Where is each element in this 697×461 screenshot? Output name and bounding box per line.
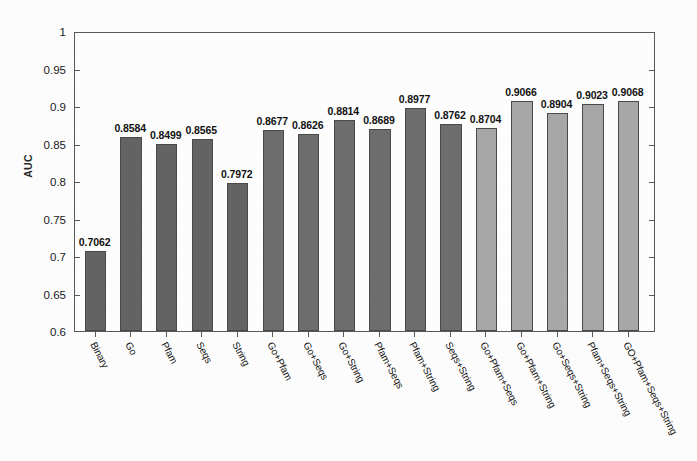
y-tick-label: 0.85 — [4, 139, 66, 151]
x-tick-label: Go+Pfam+Seqs — [479, 340, 522, 407]
x-tick-label: Binary — [88, 340, 111, 370]
y-tick-label: 0.8 — [4, 176, 66, 188]
bar — [120, 137, 141, 331]
x-tick-mark — [557, 332, 558, 337]
bar — [334, 120, 355, 331]
x-tick-mark — [592, 332, 593, 337]
x-tick-mark — [450, 332, 451, 337]
x-tick-label: Pfam+Seqs — [372, 340, 406, 390]
bar — [369, 129, 390, 331]
y-tick-label: 0.9 — [4, 101, 66, 113]
y-tick-label: 0.75 — [4, 214, 66, 226]
bar — [85, 251, 106, 331]
x-tick-label: Go+String — [337, 340, 368, 384]
x-tick-mark — [343, 332, 344, 337]
bar — [192, 139, 213, 331]
x-tick-mark — [414, 332, 415, 337]
x-tick-label: Pfam+Seqs+String — [585, 340, 633, 418]
x-tick-label: Go — [123, 340, 139, 357]
bar — [405, 108, 426, 331]
x-tick-mark — [95, 332, 96, 337]
bar — [227, 183, 248, 331]
y-tick-label: 0.7 — [4, 251, 66, 263]
plot-area — [74, 32, 655, 332]
x-tick-label: Seqs — [194, 340, 214, 365]
x-tick-label: Go+Seqs+String — [550, 340, 594, 409]
bar — [582, 104, 603, 331]
bar — [476, 128, 497, 331]
x-tick-label: Seqs+String — [443, 340, 478, 393]
x-tick-label: Go+Seqs — [301, 340, 330, 382]
x-tick-mark — [521, 332, 522, 337]
x-tick-label: Go+Pfam — [266, 340, 295, 382]
x-tick-mark — [130, 332, 131, 337]
x-tick-mark — [272, 332, 273, 337]
bar-chart-figure: AUC 0.60.650.70.750.80.850.90.951 Binary… — [0, 0, 697, 461]
x-tick-label: Go+Pfam+String — [514, 340, 558, 410]
x-tick-mark — [237, 332, 238, 337]
y-axis-label: AUC — [22, 136, 34, 196]
x-tick-label: Pfam — [159, 340, 179, 365]
x-tick-mark — [201, 332, 202, 337]
x-tick-mark — [628, 332, 629, 337]
x-tick-mark — [308, 332, 309, 337]
x-tick-mark — [379, 332, 380, 337]
x-tick-label: GO+Pfam+Seqs+String — [621, 340, 679, 436]
x-tick-label: String — [230, 340, 252, 368]
bar — [511, 101, 532, 331]
bar — [263, 130, 284, 331]
y-tick-label: 0.65 — [4, 289, 66, 301]
x-tick-label: Pfam+String — [408, 340, 443, 393]
bar — [618, 101, 639, 331]
y-tick-label: 0.6 — [4, 326, 66, 338]
x-tick-mark — [166, 332, 167, 337]
bar — [547, 113, 568, 331]
bar — [440, 124, 461, 331]
bar — [156, 144, 177, 331]
x-tick-mark — [485, 332, 486, 337]
y-tick-label: 1 — [4, 26, 66, 38]
y-tick-label: 0.95 — [4, 64, 66, 76]
bar — [298, 134, 319, 331]
